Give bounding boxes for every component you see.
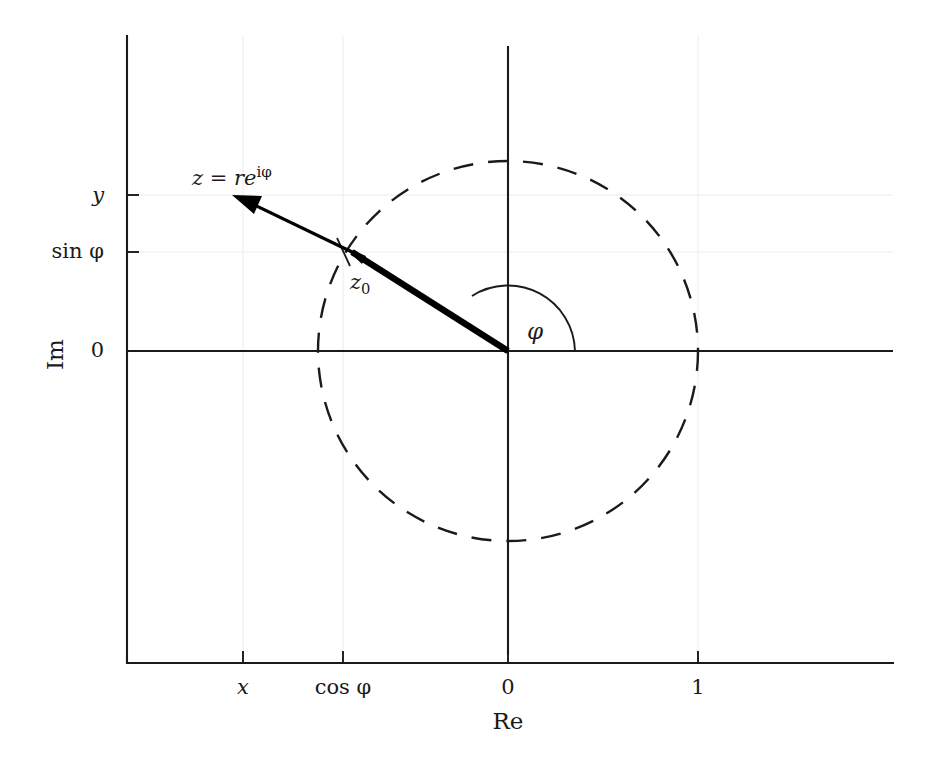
x-tick-label-one: 1 [691,677,704,698]
angle-label-phi: φ [527,320,543,343]
complex-plane-figure: y sin φ 0 x cos φ 0 1 Re Im z = reiφ z0 … [0,0,930,757]
y-tick-label-zero: 0 [91,340,104,361]
figure-canvas [0,0,930,757]
x-tick-label-cosphi: cos φ [315,677,372,698]
vector-label-base: z = re [192,166,256,190]
y-tick-label-y: y [92,185,104,206]
real-axis-title: Re [493,710,524,733]
frame-ticks [127,195,698,663]
unit-point-label-base: z [350,270,361,294]
unit-point-label-subscript: 0 [361,280,370,297]
vector-shaft-to-z [242,199,352,252]
vector-label-exponent: iφ [256,163,271,181]
frame-axes [127,36,893,663]
unit-point-label-z0: z0 [350,272,370,297]
x-tick-label-zero: 0 [501,677,514,698]
z-arrowhead [232,195,262,214]
radius-segment-to-z0 [352,252,508,351]
y-tick-label-sinphi: sin φ [52,241,104,262]
central-axes [127,46,893,655]
x-tick-label-x: x [237,677,249,698]
imaginary-axis-title: Im [44,339,67,370]
gridlines [127,36,893,663]
vector-label-z: z = reiφ [192,165,272,189]
